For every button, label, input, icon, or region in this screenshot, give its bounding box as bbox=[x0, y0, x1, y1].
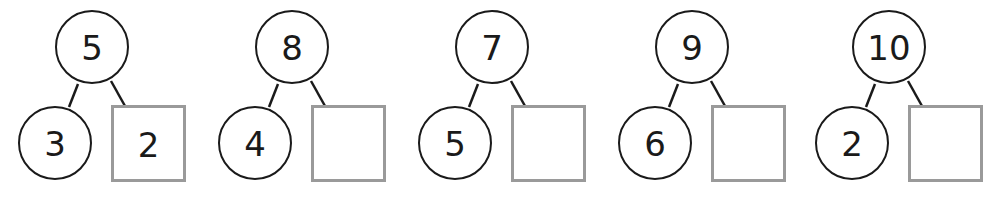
connector-line-right bbox=[511, 81, 525, 106]
connector-line-left bbox=[69, 84, 78, 107]
whole-circle: 9 bbox=[655, 10, 729, 84]
connector-line-left bbox=[269, 84, 278, 107]
whole-circle: 5 bbox=[55, 10, 129, 84]
whole-circle: 7 bbox=[455, 10, 529, 84]
whole-value: 5 bbox=[81, 31, 103, 65]
part-left-circle: 6 bbox=[618, 106, 692, 180]
whole-value: 8 bbox=[281, 31, 303, 65]
part-left-circle: 2 bbox=[815, 106, 889, 180]
answer-box-value: 2 bbox=[138, 128, 160, 162]
answer-box[interactable]: 2 bbox=[111, 105, 186, 182]
whole-value: 7 bbox=[481, 31, 503, 65]
part-left-circle: 5 bbox=[418, 106, 492, 180]
part-left-value: 3 bbox=[44, 127, 66, 161]
number-bond-5: 10 2 bbox=[797, 0, 989, 198]
connector-line-right bbox=[908, 81, 922, 106]
connector-line-right bbox=[311, 81, 325, 106]
connector-line-left bbox=[866, 84, 875, 107]
whole-circle: 10 bbox=[852, 10, 926, 84]
whole-value: 10 bbox=[867, 31, 910, 65]
answer-box[interactable] bbox=[711, 105, 786, 182]
whole-circle: 8 bbox=[255, 10, 329, 84]
number-bond-4: 9 6 bbox=[600, 0, 800, 198]
part-left-value: 2 bbox=[841, 127, 863, 161]
part-left-circle: 3 bbox=[18, 106, 92, 180]
part-left-value: 4 bbox=[244, 127, 266, 161]
number-bond-2: 8 4 bbox=[200, 0, 400, 198]
connector-line-left bbox=[469, 84, 478, 107]
answer-box[interactable] bbox=[908, 105, 983, 182]
answer-box[interactable] bbox=[311, 105, 386, 182]
number-bond-worksheet: 5 3 2 8 4 7 5 bbox=[0, 0, 989, 198]
number-bond-3: 7 5 bbox=[400, 0, 600, 198]
number-bond-1: 5 3 2 bbox=[0, 0, 200, 198]
connector-line-right bbox=[711, 81, 725, 106]
whole-value: 9 bbox=[681, 31, 703, 65]
connector-line-right bbox=[111, 81, 125, 106]
part-left-value: 6 bbox=[644, 127, 666, 161]
part-left-circle: 4 bbox=[218, 106, 292, 180]
answer-box[interactable] bbox=[511, 105, 586, 182]
part-left-value: 5 bbox=[444, 127, 466, 161]
connector-line-left bbox=[669, 84, 678, 107]
